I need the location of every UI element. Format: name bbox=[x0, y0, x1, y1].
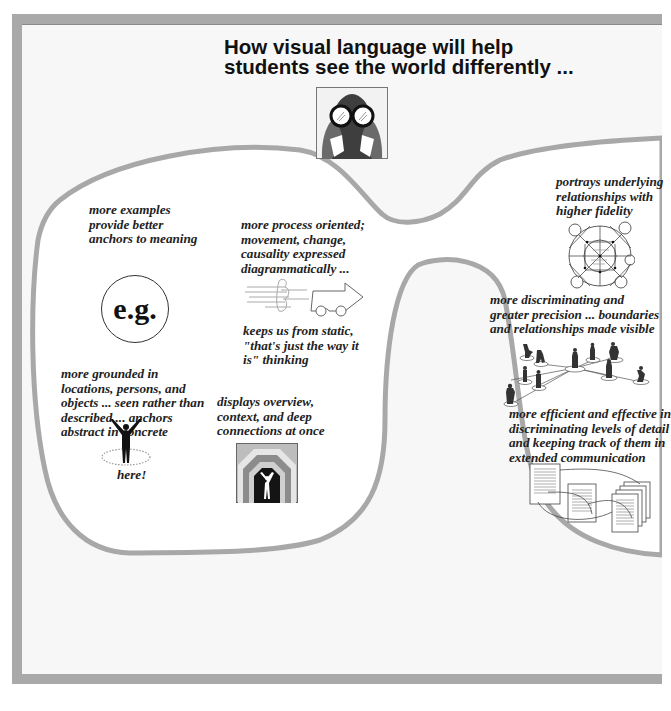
caption-line: provide better bbox=[89, 218, 197, 233]
caption-displays-overview: displays overview, context, and deep con… bbox=[217, 395, 325, 439]
network-circle-icon bbox=[565, 220, 635, 290]
caption-line: diagrammatically ... bbox=[241, 262, 365, 277]
nested-frames-icon bbox=[236, 443, 298, 503]
caption-more-discriminating: more discriminating and greater precisio… bbox=[490, 293, 659, 337]
caption-more-efficient: more efficient and effective in discrimi… bbox=[509, 407, 671, 465]
standing-figure-icon bbox=[98, 419, 154, 467]
moving-vehicle-icon bbox=[245, 277, 365, 317]
cropped-footer-text bbox=[0, 700, 670, 711]
caption-line: more process oriented; bbox=[241, 218, 365, 233]
caption-more-examples: more examples provide better anchors to … bbox=[89, 203, 197, 247]
connected-people-icon bbox=[503, 340, 663, 410]
caption-line: more discriminating and bbox=[490, 293, 659, 308]
caption-line: greater precision ... boundaries bbox=[490, 308, 659, 323]
title-line-2: students see the world differently ... bbox=[224, 57, 644, 77]
caption-line: keeps us from static, bbox=[243, 324, 359, 339]
caption-portrays-relationships: portrays underlying relationships with h… bbox=[556, 175, 663, 219]
caption-line: is" thinking bbox=[243, 353, 359, 368]
caption-line: here! bbox=[117, 468, 146, 483]
caption-line: objects ... seen rather than bbox=[61, 396, 204, 411]
caption-line: more examples bbox=[89, 203, 197, 218]
caption-line: more efficient and effective in bbox=[509, 407, 671, 422]
caption-line: movement, change, bbox=[241, 233, 365, 248]
caption-line: relationships with bbox=[556, 190, 663, 205]
caption-process-oriented: more process oriented; movement, change,… bbox=[241, 218, 365, 276]
caption-line: context, and deep bbox=[217, 410, 325, 425]
caption-line: discriminating levels of detail bbox=[509, 422, 671, 437]
caption-here: here! bbox=[117, 468, 146, 483]
caption-line: connections at once bbox=[217, 424, 325, 439]
caption-line: portrays underlying bbox=[556, 175, 663, 190]
caption-line: more grounded in bbox=[61, 367, 204, 382]
caption-keeps-from-static: keeps us from static, "that's just the w… bbox=[243, 324, 359, 368]
e-g-circle-icon: e.g. bbox=[101, 275, 169, 343]
caption-line: anchors to meaning bbox=[89, 232, 197, 247]
page-title: How visual language will help students s… bbox=[224, 37, 644, 77]
caption-line: and keeping track of them in bbox=[509, 436, 671, 451]
title-line-1: How visual language will help bbox=[224, 37, 644, 57]
caption-line: higher fidelity bbox=[556, 204, 663, 219]
binoculars-person-icon bbox=[316, 87, 388, 159]
eg-badge-text: e.g. bbox=[113, 292, 156, 326]
caption-line: locations, persons, and bbox=[61, 382, 204, 397]
caption-line: "that's just the way it bbox=[243, 339, 359, 354]
caption-line: and relationships made visible bbox=[490, 322, 659, 337]
linked-documents-icon bbox=[528, 462, 663, 534]
caption-line: displays overview, bbox=[217, 395, 325, 410]
caption-line: causality expressed bbox=[241, 247, 365, 262]
